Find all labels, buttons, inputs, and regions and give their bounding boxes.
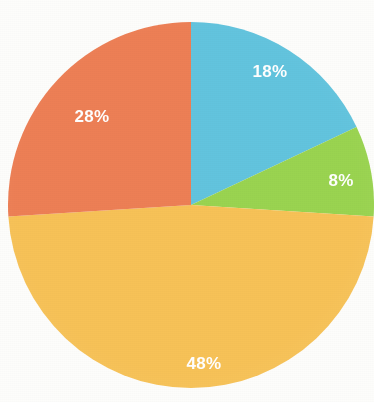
pie-chart-svg: 18% 8% 48% 28% [0,0,374,402]
pie-slice-label-2: 48% [187,354,222,373]
pie-slice-label-1: 8% [328,171,353,190]
pie-slices [8,22,374,388]
pie-slice-label-3: 28% [75,107,110,126]
pie-slice-label-0: 18% [253,62,288,81]
pie-chart-figure: 18% 8% 48% 28% [0,0,374,402]
